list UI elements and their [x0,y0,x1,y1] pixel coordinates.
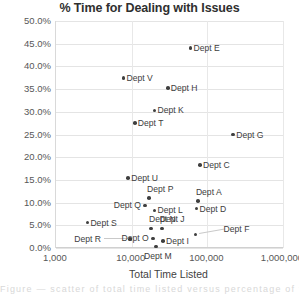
data-point-label: Dept O [122,234,149,243]
gridline-horizontal [56,44,283,45]
y-axis-tick-label: 25.0% [0,129,51,140]
x-axis-line [56,247,283,248]
data-point[interactable] [133,121,137,125]
data-point-label: Dept J [160,215,185,224]
data-point-label: Dept C [203,161,230,170]
chart-title: % Time for Dealing with Issues [0,1,299,15]
gridline-horizontal [56,180,283,181]
y-axis-tick-label: 30.0% [0,106,51,117]
data-point-label: Dept U [131,174,158,183]
data-point[interactable] [151,237,155,241]
data-point[interactable] [143,204,147,208]
y-axis-tick-label: 15.0% [0,174,51,185]
y-axis-tick-label: 35.0% [0,83,51,94]
x-axis-tick-label: 100,000 [176,252,236,263]
data-point[interactable] [166,86,170,90]
data-point-label: Dept S [90,219,116,228]
label-leader-line [199,229,225,234]
data-point-label: Dept G [236,131,263,140]
data-point-label: Dept R [74,235,101,244]
gridline-horizontal [56,66,283,67]
y-axis-tick-label: 50.0% [0,15,51,26]
data-point-label: Dept I [166,237,189,246]
data-point[interactable] [161,239,165,243]
gridline-horizontal [56,248,283,249]
data-point-label: Dept E [194,44,220,53]
data-point[interactable] [86,221,90,225]
data-point[interactable] [160,227,164,231]
gridline-horizontal [56,157,283,158]
data-point-label: Dept K [157,106,183,115]
data-point-label: Dept A [196,188,222,197]
data-point[interactable] [126,176,130,180]
data-point[interactable] [147,196,151,200]
data-point[interactable] [198,163,202,167]
y-axis-tick-label: 5.0% [0,219,51,230]
data-point[interactable] [189,46,193,50]
scatter-chart: % Time for Dealing with Issues 0.0%5.0%1… [0,0,299,295]
data-point-label: Dept H [171,84,198,93]
data-point[interactable] [122,76,126,80]
gridline-vertical [132,21,133,248]
data-point-label: Dept M [144,252,172,261]
data-point[interactable] [149,227,153,231]
data-point[interactable] [153,209,157,213]
x-axis-tick-label: 1,000,000 [252,252,299,263]
x-axis-tick-label: 1,000 [25,252,85,263]
y-axis-tick-label: 10.0% [0,197,51,208]
data-point-label: Dept T [138,119,164,128]
gridline-vertical [207,21,208,248]
gridline-vertical [283,21,284,248]
page-footer-text: Figure — scatter of total time listed ve… [0,284,299,295]
data-point-label: Dept Q [114,201,141,210]
gridline-horizontal [56,203,283,204]
data-point-label: Dept V [127,74,153,83]
y-axis-tick-label: 45.0% [0,38,51,49]
data-point[interactable] [195,207,199,211]
data-point-label: Dept P [147,185,173,194]
data-point[interactable] [231,133,235,137]
data-point-label: Dept F [224,225,250,234]
data-point-label: Dept D [200,205,227,214]
data-point[interactable] [196,199,200,203]
y-axis-tick-label: 20.0% [0,151,51,162]
data-point[interactable] [194,233,198,237]
x-axis-label: Total Time Listed [55,268,282,280]
y-axis-tick-label: 40.0% [0,60,51,71]
gridline-horizontal [56,21,283,22]
plot-area: Dept EDept VDept HDept KDept TDept GDept… [55,21,282,248]
